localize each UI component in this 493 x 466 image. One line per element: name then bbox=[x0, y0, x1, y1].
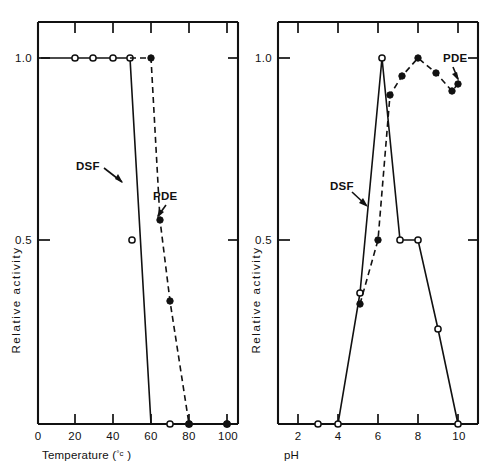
curve-label-dsf-temperature: DSF bbox=[76, 160, 100, 172]
curve-label-dsf-ph: DSF bbox=[330, 180, 354, 192]
xtick-label-temperature-40: 40 bbox=[106, 430, 119, 442]
xtick-label-ph-10: 10 bbox=[452, 430, 465, 442]
series-line-pde-temperature bbox=[130, 58, 227, 424]
xtick-label-ph-2: 2 bbox=[295, 430, 302, 442]
curve-label-pde-ph: PDE bbox=[443, 52, 468, 64]
y-ticks-right-temperature bbox=[228, 58, 238, 240]
xtick-label-temperature-60: 60 bbox=[144, 430, 157, 442]
ytick-label-temperature-0.5: 0.5 bbox=[15, 234, 32, 246]
plot-canvas: 0 20 40 60 80 100 1.0 0.5 Temperature (°… bbox=[0, 0, 493, 466]
xtick-label-ph-8: 8 bbox=[415, 430, 422, 442]
y-ticks-ph bbox=[278, 58, 290, 240]
curve-arrow-dsf-ph bbox=[352, 192, 368, 207]
xtick-label-temperature-100: 100 bbox=[218, 430, 238, 442]
top-ticks-temperature bbox=[75, 22, 227, 33]
y-axis-title-ph: Relative activity bbox=[250, 246, 262, 353]
xtick-label-ph-4: 4 bbox=[335, 430, 342, 442]
curve-arrow-pde-temperature bbox=[157, 205, 166, 218]
bottom-ticks-ph bbox=[298, 414, 458, 424]
ytick-label-ph-0.5: 0.5 bbox=[255, 234, 272, 246]
axes-frame-temperature bbox=[38, 22, 238, 424]
series-line-pde-ph bbox=[360, 58, 458, 304]
curve-arrow-pde-ph bbox=[452, 67, 459, 81]
y-ticks-temperature bbox=[38, 58, 50, 240]
series-markers-pde-ph bbox=[357, 55, 461, 307]
xtick-label-ph-6: 6 bbox=[375, 430, 382, 442]
curve-arrow-dsf-temperature bbox=[104, 168, 123, 183]
y-axis-title-temperature: Relative activity bbox=[10, 246, 22, 353]
xtick-label-temperature-0: 0 bbox=[35, 430, 42, 442]
axes-frame-ph bbox=[278, 22, 478, 424]
ytick-label-temperature-1: 1.0 bbox=[15, 52, 32, 64]
series-markers-dsf-temperature bbox=[72, 55, 230, 427]
x-axis-title-temperature-tail: ) bbox=[124, 449, 131, 461]
ytick-label-ph-1: 1.0 bbox=[255, 52, 272, 64]
xtick-label-temperature-80: 80 bbox=[182, 430, 195, 442]
y-ticks-right-ph bbox=[468, 58, 478, 240]
panel-ph: 2 4 6 8 10 1.0 0.5 pH Relative activity bbox=[250, 22, 478, 461]
curve-label-pde-temperature: PDE bbox=[153, 190, 178, 202]
figure-root: 0 20 40 60 80 100 1.0 0.5 Temperature (°… bbox=[0, 0, 493, 466]
x-axis-title-temperature-unit: °c bbox=[116, 449, 124, 458]
x-axis-title-temperature: Temperature (°c ) bbox=[42, 449, 131, 461]
x-axis-title-temperature-main: Temperature ( bbox=[42, 449, 116, 461]
panel-temperature: 0 20 40 60 80 100 1.0 0.5 Temperature (°… bbox=[10, 22, 238, 461]
xtick-label-temperature-20: 20 bbox=[68, 430, 81, 442]
top-ticks-ph bbox=[298, 22, 458, 33]
series-markers-pde-temperature bbox=[148, 55, 230, 427]
x-axis-title-ph: pH bbox=[284, 449, 299, 461]
